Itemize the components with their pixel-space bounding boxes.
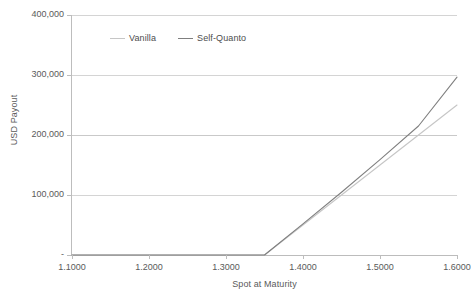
plot-area [72,15,457,255]
x-tick-label: 1.3000 [196,262,256,272]
y-tick-label: 300,000 [0,69,64,79]
y-tick-mark [67,255,71,256]
legend-entry-vanilla[interactable]: Vanilla [110,33,156,43]
x-tick-mark [226,255,227,259]
y-tick-mark [67,75,71,76]
legend-entry-self-quanto[interactable]: Self-Quanto [178,33,246,43]
legend-line-icon [178,38,193,39]
x-tick-mark [149,255,150,259]
series-container [72,15,457,255]
y-tick-mark [67,195,71,196]
x-tick-mark [72,255,73,259]
y-tick-label: 100,000 [0,189,64,199]
x-axis-title: Spot at Maturity [72,279,457,289]
legend-label: Vanilla [129,33,156,43]
y-axis-title: USD Payout [9,75,19,165]
y-tick-label: - [0,249,64,259]
legend-label: Self-Quanto [197,33,246,43]
y-tick-label: 200,000 [0,129,64,139]
series-line-self-quanto [72,77,457,255]
y-tick-label: 400,000 [0,9,64,19]
x-tick-mark [457,255,458,259]
x-tick-label: 1.4000 [273,262,333,272]
x-tick-label: 1.2000 [119,262,179,272]
x-tick-label: 1.1000 [42,262,102,272]
series-line-vanilla [72,105,457,255]
legend-line-icon [110,38,125,39]
x-tick-label: 1.6000 [427,262,472,272]
y-tick-mark [67,15,71,16]
x-tick-mark [380,255,381,259]
x-tick-label: 1.5000 [350,262,410,272]
chart-legend: VanillaSelf-Quanto [110,33,246,43]
x-tick-mark [303,255,304,259]
y-tick-mark [67,135,71,136]
payout-chart: USD Payout 400,000300,000200,000100,000-… [0,0,472,302]
